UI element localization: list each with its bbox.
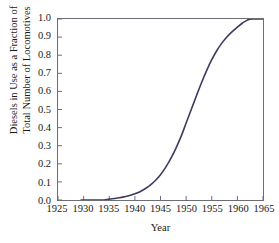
y-tick-label: 0.9	[38, 31, 51, 42]
data-series-line	[81, 19, 263, 200]
y-tick-label: 0.6	[38, 86, 51, 97]
x-tick-label: 1935	[98, 203, 119, 215]
y-tick-label: 0.7	[38, 68, 51, 79]
chart-figure: Diesels in Use as a Fraction of Total Nu…	[0, 0, 279, 243]
y-tick-label: 0.3	[38, 141, 51, 152]
x-tick-label: 1965	[254, 203, 275, 215]
x-tick-label: 1960	[228, 203, 249, 215]
y-tick-label: 0.1	[38, 177, 51, 188]
y-tick-label: 0.2	[38, 159, 51, 170]
x-tick-label: 1945	[150, 203, 171, 215]
plot-svg	[58, 19, 263, 200]
y-axis-tick-labels: 0.00.10.20.30.40.50.60.70.80.91.0	[0, 18, 54, 201]
axis-ticks	[58, 19, 263, 200]
x-tick-label: 1930	[72, 203, 93, 215]
x-axis-label: Year	[57, 222, 264, 233]
x-axis-tick-labels: 192519301935194019451950195519601965	[57, 203, 264, 217]
y-tick-label: 0.5	[38, 104, 51, 115]
x-tick-label: 1925	[47, 203, 68, 215]
x-tick-label: 1940	[124, 203, 145, 215]
x-tick-label: 1955	[202, 203, 223, 215]
y-tick-label: 1.0	[38, 13, 51, 24]
plot-area	[57, 18, 264, 201]
y-tick-label: 0.8	[38, 49, 51, 60]
y-tick-label: 0.4	[38, 123, 51, 134]
x-tick-label: 1950	[176, 203, 197, 215]
